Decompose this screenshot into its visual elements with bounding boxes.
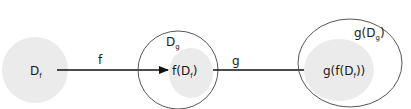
arrow-g: g: [213, 54, 320, 70]
diagram-canvas: Df f Dg f(Df) g g(Dg) g(f(Df)): [0, 0, 411, 109]
image-g-label: g(Dg): [354, 26, 385, 42]
composition-diagram: Df f Dg f(Df) g g(Dg) g(f(Df)): [0, 0, 411, 109]
image-f-label: f(Df): [172, 64, 197, 80]
arrow-f-label: f: [98, 53, 103, 67]
domain-g-label: Dg: [166, 35, 180, 51]
arrow-f: f: [57, 53, 168, 70]
composite-image-label: g(f(Df)): [323, 64, 365, 80]
image-g-node: g(Dg) g(f(Df)): [298, 19, 402, 107]
arrow-g-label: g: [232, 54, 240, 68]
